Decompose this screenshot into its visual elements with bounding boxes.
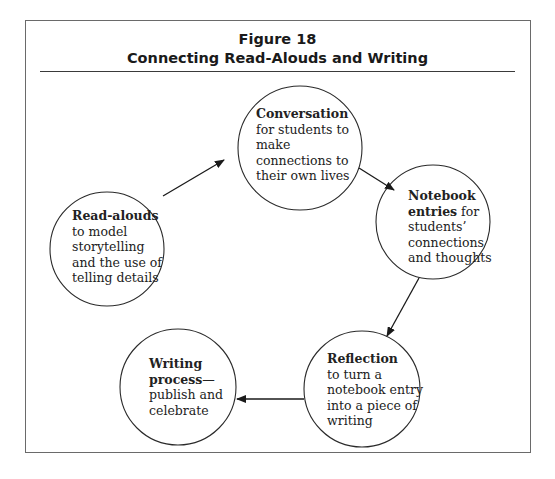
node-line: telling details [72,270,162,286]
node-reflection: Reflection to turn a notebook entry into… [327,351,423,429]
node-line: celebrate [149,403,223,419]
node-heading: Notebook [408,188,476,203]
node-line: to model [72,224,162,240]
node-read-alouds: Read-alouds to model storytelling and th… [72,208,162,286]
node-conversation: Conversation for students to make connec… [256,106,350,184]
node-line: and the use of [72,255,162,271]
node-line: into a piece of [327,398,423,414]
node-inline-text: for [457,204,479,219]
arrow-read-alouds-to-conversation [163,160,224,196]
node-writing-process: Writing process— publish and celebrate [149,356,223,418]
node-heading: Conversation [256,106,348,121]
node-line: publish and [149,387,223,403]
node-line: students’ [408,219,492,235]
node-line: notebook entry [327,382,423,398]
node-heading-2: entries [408,204,457,219]
node-line: and thoughts [408,250,492,266]
node-line: connections [408,235,492,251]
node-line: connections to [256,153,350,169]
node-line: to turn a [327,367,423,383]
node-heading: Writing [149,356,202,371]
arrow-notebook-to-reflection [387,278,419,336]
node-line: writing [327,413,423,429]
node-line: for students to [256,122,350,138]
node-heading: Read-alouds [72,208,158,223]
node-inline-text: — [202,372,215,387]
node-line: storytelling [72,239,162,255]
node-heading: Reflection [327,351,398,366]
node-line: make [256,137,350,153]
node-line: their own lives [256,168,350,184]
node-heading-2: process [149,372,202,387]
node-notebook: Notebook entries for students’ connectio… [408,188,492,266]
arrow-conversation-to-notebook [359,168,394,190]
